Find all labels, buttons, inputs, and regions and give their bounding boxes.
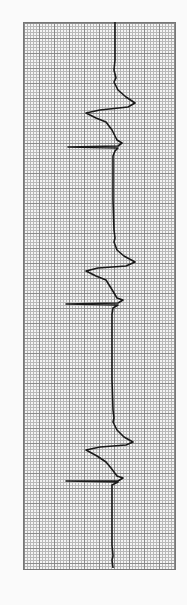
ecg-trace	[0, 0, 187, 605]
